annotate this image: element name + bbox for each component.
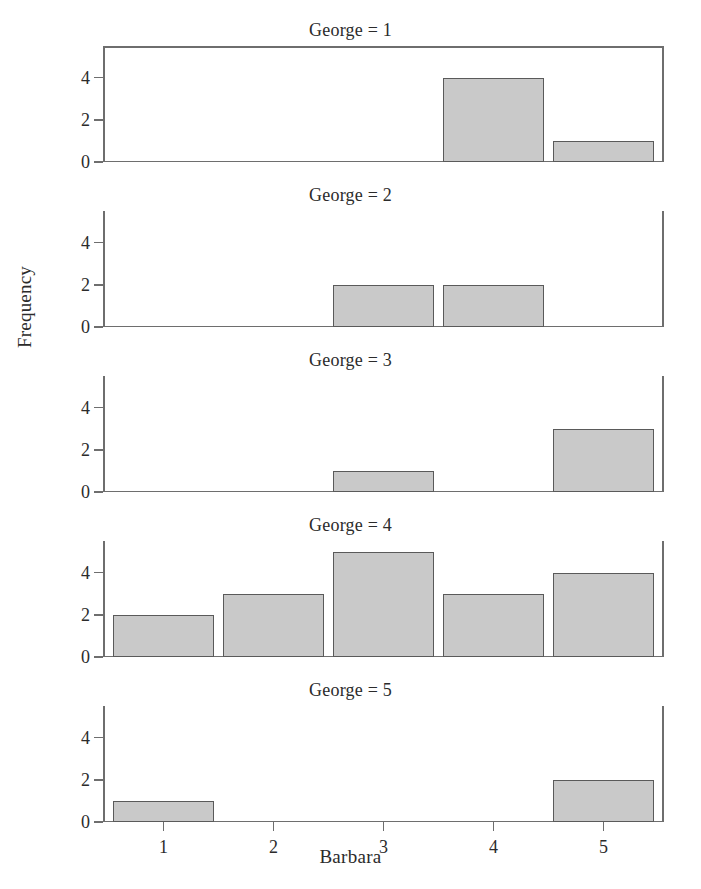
x-tick-mark <box>603 822 605 831</box>
y-tick-mark <box>94 77 103 79</box>
right-axis-line <box>662 46 664 162</box>
y-tick-label: 2 <box>81 111 90 129</box>
bar <box>553 573 654 657</box>
bar <box>553 780 654 822</box>
x-axis-title: Barbara <box>0 846 701 868</box>
right-axis-line <box>662 541 664 657</box>
bar <box>443 78 544 162</box>
plot-area: 024 <box>103 211 664 327</box>
y-tick-mark <box>94 779 103 781</box>
y-tick-mark <box>94 242 103 244</box>
y-tick-label: 2 <box>81 606 90 624</box>
y-tick-label: 0 <box>81 813 90 831</box>
right-axis-line <box>662 211 664 327</box>
left-axis-line <box>103 46 105 162</box>
y-tick-mark <box>94 821 103 823</box>
y-tick-label: 4 <box>81 234 90 252</box>
panel-george-5: George = 502412345 <box>0 680 701 826</box>
y-tick-label: 4 <box>81 399 90 417</box>
bar <box>553 429 654 492</box>
x-tick-mark <box>493 822 495 831</box>
y-tick-label: 4 <box>81 729 90 747</box>
y-tick-label: 2 <box>81 441 90 459</box>
right-axis-line <box>662 376 664 492</box>
panel-george-3: George = 3024 <box>0 350 701 496</box>
panel-george-1: George = 1024 <box>0 20 701 166</box>
panel-george-2: George = 2024 <box>0 185 701 331</box>
y-tick-label: 2 <box>81 771 90 789</box>
y-tick-mark <box>94 119 103 121</box>
y-tick-label: 4 <box>81 69 90 87</box>
bar <box>553 141 654 162</box>
y-tick-mark <box>94 572 103 574</box>
x-tick-mark <box>273 822 275 831</box>
left-axis-line <box>103 211 105 327</box>
panel-title: George = 5 <box>0 680 701 701</box>
panel-title: George = 1 <box>0 20 701 41</box>
y-tick-mark <box>94 449 103 451</box>
bar <box>223 594 324 657</box>
y-tick-mark <box>94 491 103 493</box>
y-tick-mark <box>94 614 103 616</box>
y-tick-label: 0 <box>81 153 90 171</box>
y-tick-mark <box>94 656 103 658</box>
bar <box>443 285 544 327</box>
y-tick-label: 4 <box>81 564 90 582</box>
bar <box>333 285 434 327</box>
left-axis-line <box>103 706 105 822</box>
y-tick-label: 0 <box>81 483 90 501</box>
bar <box>113 801 214 822</box>
y-tick-label: 2 <box>81 276 90 294</box>
bar <box>113 615 214 657</box>
panel-title: George = 4 <box>0 515 701 536</box>
panel-title: George = 3 <box>0 350 701 371</box>
plot-area: 024 <box>103 46 664 162</box>
top-axis-line <box>103 46 664 48</box>
histogram-panel-figure: Frequency George = 1024George = 2024Geor… <box>0 0 701 889</box>
plot-area: 02412345 <box>103 706 664 822</box>
plot-area: 024 <box>103 376 664 492</box>
y-tick-mark <box>94 737 103 739</box>
left-axis-line <box>103 541 105 657</box>
left-axis-line <box>103 376 105 492</box>
y-tick-mark <box>94 407 103 409</box>
panel-title: George = 2 <box>0 185 701 206</box>
y-tick-label: 0 <box>81 318 90 336</box>
right-axis-line <box>662 706 664 822</box>
x-tick-mark <box>163 822 165 831</box>
x-tick-mark <box>383 822 385 831</box>
bar <box>443 594 544 657</box>
y-tick-mark <box>94 326 103 328</box>
bar <box>333 471 434 492</box>
y-tick-mark <box>94 284 103 286</box>
bar <box>333 552 434 657</box>
y-tick-mark <box>94 161 103 163</box>
panel-george-4: George = 4024 <box>0 515 701 661</box>
y-tick-label: 0 <box>81 648 90 666</box>
plot-area: 024 <box>103 541 664 657</box>
